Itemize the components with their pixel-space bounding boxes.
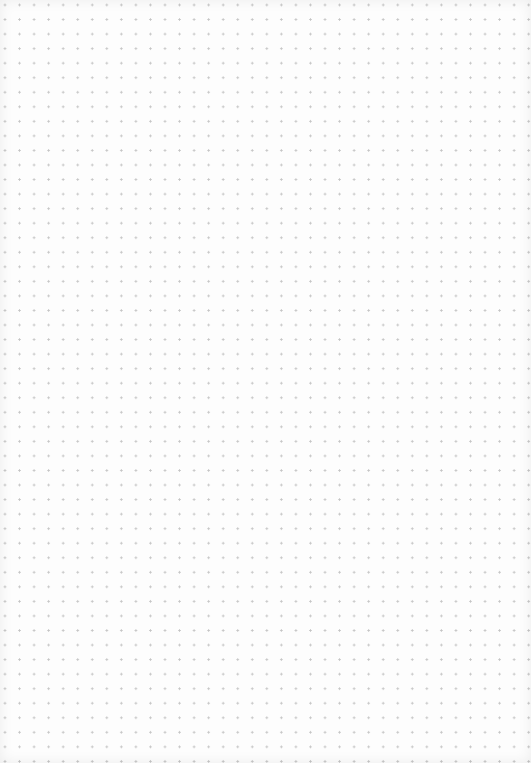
dot-grid-page (0, 0, 531, 763)
page-edge-shadow (0, 0, 531, 763)
